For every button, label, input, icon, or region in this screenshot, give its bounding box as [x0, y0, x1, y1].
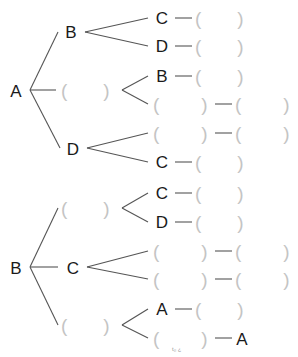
tree1-branch-b: B: [65, 24, 76, 41]
tree2-leaf-d: D: [156, 214, 168, 231]
tree1-end-blank[interactable]: (): [195, 9, 244, 28]
tree2-branch-c: C: [67, 260, 79, 277]
tree2-end-blank[interactable]: (): [195, 184, 244, 203]
tree2-end-blank[interactable]: (): [235, 242, 290, 261]
tree1-leaf-c: C: [156, 10, 168, 27]
tree1-root: A: [10, 83, 21, 100]
tree1-end-blank[interactable]: (): [235, 95, 290, 114]
tree2-leaf-blank[interactable]: (): [153, 329, 208, 348]
tree2-branch-blank[interactable]: (): [61, 199, 110, 218]
tree2-end-blank[interactable]: (): [195, 213, 244, 232]
tree1-leaf-b: B: [156, 68, 167, 85]
watermark: t₀ ¿: [172, 346, 182, 352]
tree2-leaf-blank[interactable]: (): [153, 270, 208, 289]
tree1-leaf-blank[interactable]: (): [153, 124, 208, 143]
tree1-end-blank[interactable]: (): [195, 67, 244, 86]
tree2-branch-blank[interactable]: (): [61, 316, 110, 335]
tree1-end-blank[interactable]: (): [195, 153, 244, 172]
tree1-leaf-d: D: [156, 38, 168, 55]
tree2-end-a: A: [236, 331, 247, 348]
tree1-leaf-c2: C: [156, 154, 168, 171]
tree1-leaf-blank[interactable]: (): [153, 95, 208, 114]
tree1-end-blank[interactable]: (): [235, 124, 290, 143]
tree2-end-blank[interactable]: (): [195, 300, 244, 319]
tree1-branch-d: D: [67, 141, 79, 158]
tree1-branch-blank[interactable]: (): [61, 81, 110, 100]
tree2-leaf-blank[interactable]: (): [153, 242, 208, 261]
tree1-end-blank[interactable]: (): [195, 37, 244, 56]
tree2-leaf-c: C: [156, 185, 168, 202]
tree2-leaf-a: A: [156, 301, 167, 318]
tree2-root: B: [10, 260, 21, 277]
tree2-end-blank[interactable]: (): [235, 270, 290, 289]
tree-connectors: [0, 0, 298, 357]
